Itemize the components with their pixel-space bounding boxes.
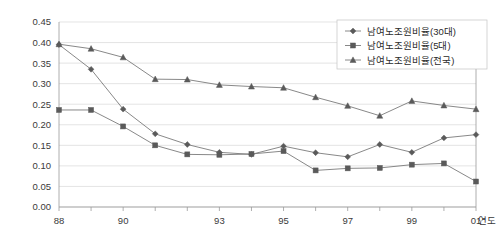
x-tick-label: 97 [342,215,353,226]
x-tick-label: 90 [118,215,129,226]
data-point-marker [313,168,318,173]
data-point-marker [249,151,254,156]
data-point-marker [409,162,414,167]
data-point-marker [377,142,383,148]
data-point-marker [409,149,415,155]
x-tick-label: 99 [407,215,418,226]
data-point-marker [217,152,222,157]
y-tick-label: 0.10 [33,160,52,171]
line-chart: 0.000.050.100.150.200.250.300.350.400.45… [0,0,504,247]
x-axis-tick-labels: 88909395979901 [54,215,482,226]
data-point-marker [281,149,286,154]
x-tick-label: 88 [54,215,65,226]
legend-marker-icon [351,43,356,48]
data-point-marker [441,135,447,141]
chart-canvas: 0.000.050.100.150.200.250.300.350.400.45… [0,0,504,247]
series-line [59,110,476,182]
y-tick-label: 0.15 [33,140,52,151]
data-point-marker [184,142,190,148]
data-point-marker [441,161,446,166]
x-tick-label: 93 [214,215,225,226]
data-point-marker [474,179,479,184]
y-tick-label: 0.35 [33,58,52,69]
data-point-marker [473,132,479,138]
legend-item-label: 남여노조원비율(5대) [367,40,451,51]
y-tick-label: 0.45 [33,16,52,27]
y-tick-label: 0.05 [33,181,52,192]
legend-item-label: 남여노조원비율(30대) [367,26,456,37]
y-axis-tick-labels: 0.000.050.100.150.200.250.300.350.400.45 [33,16,52,212]
y-tick-label: 0.30 [33,78,52,89]
legend: 남여노조원비율(30대)남여노조원비율(5대)남여노조원비율(전국) [337,20,487,69]
y-tick-label: 0.40 [33,37,52,48]
x-tick-label: 95 [278,215,289,226]
data-point-marker [345,166,350,171]
data-point-marker [153,143,158,148]
legend-item-label: 남여노조원비율(전국) [367,55,454,66]
data-point-marker [377,165,382,170]
x-axis-title: 연도 [478,215,496,226]
y-tick-label: 0.20 [33,119,52,130]
data-point-marker [313,150,319,156]
data-point-marker [345,154,351,160]
data-point-marker [281,143,287,149]
data-point-marker [185,152,190,157]
data-point-marker [121,124,126,129]
y-tick-label: 0.00 [33,201,52,212]
data-point-marker [409,98,415,104]
data-point-marker [89,107,94,112]
y-tick-label: 0.25 [33,99,52,110]
series-2 [57,107,479,184]
data-point-marker [57,107,62,112]
